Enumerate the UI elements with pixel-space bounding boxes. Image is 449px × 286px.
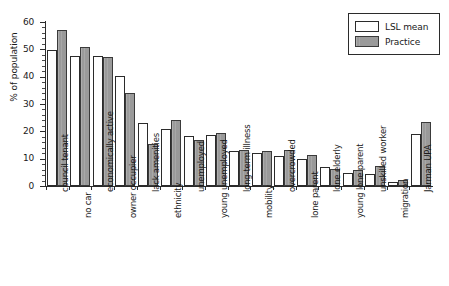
x-axis-label: young unemployed bbox=[220, 139, 229, 218]
bar-lsl-mean bbox=[115, 76, 125, 186]
y-tick-minor bbox=[42, 93, 45, 94]
y-tick-minor bbox=[42, 33, 45, 34]
chart-legend: LSL mean Practice bbox=[348, 13, 440, 55]
y-tick-minor bbox=[42, 99, 45, 100]
bar-lsl-mean bbox=[297, 159, 307, 186]
x-axis-label: council tenant bbox=[61, 134, 70, 192]
legend-swatch-lsl-mean-icon bbox=[355, 21, 379, 32]
bar-lsl-mean bbox=[161, 129, 171, 186]
legend-label-lsl-mean: LSL mean bbox=[385, 22, 428, 32]
y-tick-minor bbox=[42, 126, 45, 127]
bar-lsl-mean bbox=[184, 136, 194, 186]
y-tick-label: 60 bbox=[8, 18, 34, 27]
y-tick-minor bbox=[42, 170, 45, 171]
x-axis-label: unemployed bbox=[197, 141, 206, 192]
x-axis-label: mobility bbox=[265, 185, 274, 218]
y-tick-label: 40 bbox=[8, 72, 34, 81]
bar-chart-figure: % of population 0102030405060 council te… bbox=[0, 0, 449, 286]
y-tick-minor bbox=[42, 27, 45, 28]
y-tick-major bbox=[40, 49, 45, 50]
x-tick bbox=[91, 186, 92, 190]
y-tick-minor bbox=[42, 109, 45, 110]
y-tick-minor bbox=[42, 142, 45, 143]
y-tick-minor bbox=[42, 120, 45, 121]
y-tick-minor bbox=[42, 153, 45, 154]
x-axis-label: overcrowded bbox=[288, 139, 297, 192]
x-axis-label: no car bbox=[84, 193, 93, 218]
y-tick-label: 20 bbox=[8, 127, 34, 136]
x-axis-label: lack amenities bbox=[152, 133, 161, 192]
x-tick bbox=[46, 186, 47, 190]
x-axis-label: long-term illness bbox=[243, 125, 252, 192]
y-tick-label: 50 bbox=[8, 45, 34, 54]
x-axis-label: ethnicity bbox=[174, 183, 183, 218]
bar-lsl-mean bbox=[388, 182, 398, 186]
y-tick-minor bbox=[42, 55, 45, 56]
bar-lsl-mean bbox=[411, 134, 421, 186]
y-tick-major bbox=[40, 186, 45, 187]
y-tick-minor bbox=[42, 88, 45, 89]
bar-lsl-mean bbox=[93, 56, 103, 186]
y-tick-minor bbox=[42, 181, 45, 182]
x-axis-label: owner occupier bbox=[129, 155, 138, 218]
x-axis-label: Jarman UPA bbox=[424, 145, 433, 192]
x-axis-label: lone parent bbox=[311, 171, 320, 218]
x-axis-label: migration bbox=[401, 179, 410, 218]
y-tick-minor bbox=[42, 148, 45, 149]
y-tick-minor bbox=[42, 115, 45, 116]
y-tick-minor bbox=[42, 66, 45, 67]
bar-lsl-mean bbox=[138, 123, 148, 186]
y-tick-minor bbox=[42, 71, 45, 72]
y-tick-minor bbox=[42, 82, 45, 83]
y-tick-major bbox=[40, 104, 45, 105]
x-axis-label: young lone parent bbox=[356, 144, 365, 218]
legend-item-practice: Practice bbox=[355, 34, 433, 49]
y-tick-minor bbox=[42, 38, 45, 39]
bar-lsl-mean bbox=[206, 135, 216, 186]
y-tick-major bbox=[40, 77, 45, 78]
x-axis-label: economically active bbox=[106, 111, 115, 192]
y-tick-major bbox=[40, 22, 45, 23]
bar-group bbox=[250, 22, 273, 186]
bar-lsl-mean bbox=[343, 173, 353, 186]
legend-label-practice: Practice bbox=[385, 37, 420, 47]
bar-group bbox=[69, 22, 92, 186]
x-axis-line bbox=[45, 186, 433, 187]
y-tick-major bbox=[40, 159, 45, 160]
bar-lsl-mean bbox=[70, 56, 80, 186]
bar-practice bbox=[262, 151, 272, 186]
bar-lsl-mean bbox=[274, 156, 284, 186]
y-tick-minor bbox=[42, 175, 45, 176]
y-tick-minor bbox=[42, 44, 45, 45]
y-tick-minor bbox=[42, 60, 45, 61]
legend-item-lsl-mean: LSL mean bbox=[355, 19, 433, 34]
bar-lsl-mean bbox=[47, 50, 57, 186]
y-tick-minor bbox=[42, 164, 45, 165]
y-tick-major bbox=[40, 131, 45, 132]
y-tick-minor bbox=[42, 137, 45, 138]
y-tick-label: 10 bbox=[8, 154, 34, 163]
bar-lsl-mean bbox=[320, 167, 330, 186]
bar-lsl-mean bbox=[252, 153, 262, 186]
bar-lsl-mean bbox=[365, 174, 375, 186]
y-tick-label: 0 bbox=[8, 182, 34, 191]
bar-group bbox=[296, 22, 319, 186]
bar-lsl-mean bbox=[229, 151, 239, 186]
bar-practice bbox=[171, 120, 181, 186]
legend-swatch-practice-icon bbox=[355, 36, 379, 47]
bar-group bbox=[160, 22, 183, 186]
bar-practice bbox=[80, 47, 90, 186]
x-axis-label: lone elderly bbox=[333, 144, 342, 192]
y-tick-label: 30 bbox=[8, 100, 34, 109]
x-axis-label: unskilled worker bbox=[379, 126, 388, 192]
